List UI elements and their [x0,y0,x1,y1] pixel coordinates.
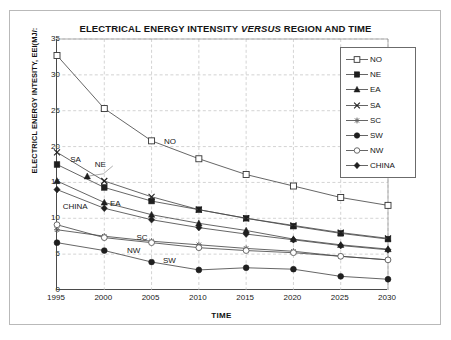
marker-open-square [149,138,155,144]
marker-filled-diamond [354,163,360,169]
plot-area: NOSANEEACHINASCNWSW [56,39,387,290]
open-circle-icon [346,145,368,156]
chart-title-pre: ELECTRICAL ENERGY INTENSITY [79,23,241,34]
asterisk-icon [346,115,368,126]
legend-item-sa[interactable]: SA [341,98,415,113]
marker-filled-circle [291,266,297,272]
marker-filled-square [54,162,60,168]
marker-open-circle [101,235,107,241]
marker-open-circle [196,245,202,251]
x-tick-2005: 2005 [129,294,173,302]
annotation-sa: SA [70,156,81,164]
marker-filled-circle [196,267,202,273]
legend-item-no[interactable]: NO [341,52,415,67]
legend-label: SC [370,116,381,125]
annotation-nw: NW [127,247,140,255]
x-cross-icon [346,100,368,111]
marker-open-circle [243,248,249,254]
marker-filled-triangle [101,199,107,205]
marker-open-square [290,183,296,189]
marker-filled-square [101,185,107,191]
chart-title: ELECTRICAL ENERGY INTENSITY VERSUS REGIO… [0,23,451,34]
chart-legend: NONEEASASCSWNWCHINA [340,47,416,178]
marker-x-cross [101,178,107,184]
marker-filled-circle [385,276,391,282]
marker-open-circle [354,148,360,154]
marker-filled-circle [54,240,60,246]
marker-open-square [101,106,107,112]
marker-open-square [196,156,202,162]
marker-open-circle [338,253,344,259]
marker-open-square [54,52,60,58]
legend-label: EA [370,85,381,94]
chart-figure: ELECTRICAL ENERGY INTENSITY VERSUS REGIO… [0,0,451,340]
marker-open-circle [54,222,60,228]
x-tick-2015: 2015 [223,294,267,302]
marker-asterisk [354,117,360,123]
legend-item-sc[interactable]: SC [341,113,415,128]
marker-filled-circle [243,265,249,271]
legend-item-ea[interactable]: EA [341,82,415,97]
annotation-sw: SW [163,257,176,265]
x-tick-2000: 2000 [81,294,125,302]
annotation-sc: SC [136,234,147,242]
marker-open-square [243,172,249,178]
marker-filled-diamond [290,236,296,243]
x-tick-2025: 2025 [318,294,362,302]
legend-label: SW [370,131,383,140]
marker-filled-circle [149,259,155,265]
marker-filled-circle [354,133,360,139]
legend-label: SA [370,101,381,110]
legend-label: NO [370,55,382,64]
annotation-china: CHINA [63,203,88,211]
annotation-no: NO [164,138,176,146]
marker-filled-diamond [101,205,107,212]
legend-item-ne[interactable]: NE [341,67,415,82]
marker-open-square [354,57,360,63]
annotation-ne: NE [95,161,106,169]
marker-filled-circle [101,248,107,254]
x-tick-1995: 1995 [34,294,78,302]
plot-svg [57,39,388,290]
chart-title-emphasis: VERSUS [241,23,281,34]
filled-circle-icon [346,130,368,141]
marker-open-circle [291,250,297,256]
legend-item-nw[interactable]: NW [341,143,415,158]
x-tick-2030: 2030 [365,294,409,302]
open-square-icon [346,54,368,65]
marker-open-circle [385,257,391,263]
marker-filled-circle [338,273,344,279]
marker-open-square [385,202,391,208]
filled-diamond-icon [346,160,368,171]
x-axis-label: TIME [56,311,387,320]
legend-item-sw[interactable]: SW [341,128,415,143]
legend-label: CHINA [370,161,395,170]
chart-title-post: REGION AND TIME [281,23,372,34]
x-tick-2020: 2020 [270,294,314,302]
x-tick-2010: 2010 [176,294,220,302]
legend-label: NW [370,146,383,155]
marker-open-circle [149,240,155,246]
legend-item-china[interactable]: CHINA [341,158,415,173]
marker-filled-square [354,72,359,77]
filled-square-icon [346,69,368,80]
annotation-ea: EA [110,200,121,208]
marker-open-square [338,194,344,200]
marker-filled-diamond [338,242,344,249]
legend-label: NE [370,70,381,79]
filled-triangle-icon [346,84,368,95]
